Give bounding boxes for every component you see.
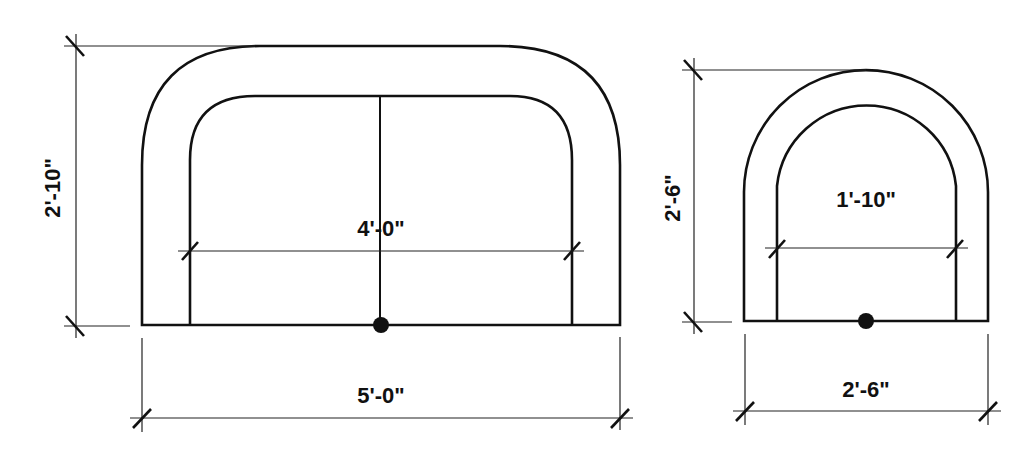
right-inner-profile: [777, 105, 956, 321]
left-center-point: [373, 317, 389, 333]
right-center-point: [858, 313, 874, 329]
right-inner-width-label: 1'-10": [836, 187, 896, 212]
left-shape: 2'-10" 4'-0" 5'-0": [40, 34, 633, 432]
dimension-diagram: 2'-10" 4'-0" 5'-0" 2'-6" 1'-10": [0, 0, 1035, 450]
left-inner-width-label: 4'-0": [357, 216, 404, 241]
left-width-label: 5'-0": [357, 383, 404, 408]
right-width-label: 2'-6": [842, 377, 889, 402]
left-height-label: 2'-10": [40, 158, 65, 218]
right-height-label: 2'-6": [660, 174, 685, 221]
right-shape: 2'-6" 1'-10" 2'-6": [660, 58, 1001, 425]
